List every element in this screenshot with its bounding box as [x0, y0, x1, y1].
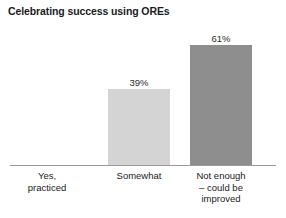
x-label-not-enough-line-2: – could be — [175, 182, 267, 194]
bar-slot-yes-practiced — [16, 0, 78, 167]
x-label-not-enough-line-1: Not enough — [175, 170, 267, 182]
x-label-somewhat-line-1: Somewhat — [93, 170, 185, 182]
bar-slot-somewhat: 39% — [108, 0, 170, 167]
bar-slot-not-enough: 61% — [190, 0, 252, 167]
bar-chart-figure: Celebrating success using OREs 39% 61% Y… — [0, 0, 286, 218]
x-label-yes-practiced-line-2: practiced — [1, 182, 93, 194]
x-label-not-enough-line-3: improved — [175, 193, 267, 205]
bar-value-somewhat: 39% — [108, 77, 170, 88]
x-label-not-enough: Not enough – could be improved — [175, 170, 267, 205]
x-label-yes-practiced-line-1: Yes, — [1, 170, 93, 182]
x-label-yes-practiced: Yes, practiced — [1, 170, 93, 193]
bar-not-enough — [190, 45, 252, 166]
bar-value-not-enough: 61% — [190, 33, 252, 44]
x-axis-line — [10, 165, 276, 166]
bar-somewhat — [108, 89, 170, 166]
plot-area: 39% 61% — [0, 0, 286, 167]
x-axis-labels: Yes, practiced Somewhat Not enough – cou… — [0, 170, 286, 218]
x-label-somewhat: Somewhat — [93, 170, 185, 182]
